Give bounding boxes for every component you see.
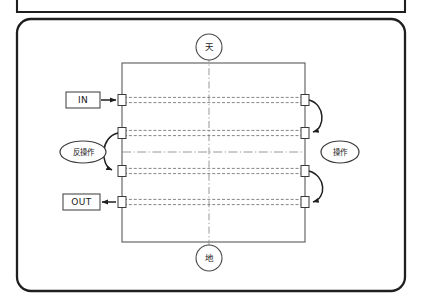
in-label-group: IN	[66, 92, 116, 108]
device-body-rectangle	[122, 63, 305, 242]
trace-4	[124, 199, 303, 204]
pad-right-1	[301, 95, 309, 106]
pad-right-2	[301, 128, 309, 139]
left-bubble-group: 反操作	[60, 141, 106, 163]
out-label-group: OUT	[63, 194, 116, 210]
out-box-label: OUT	[71, 197, 91, 207]
trace-channels	[124, 97, 303, 204]
arc-right-lower	[309, 171, 323, 202]
arc-right-upper	[309, 100, 322, 132]
cropped-frame-above	[17, 0, 405, 12]
bottom-node-group: 地	[196, 245, 222, 271]
pad-right-4	[301, 197, 309, 208]
trace-2	[124, 130, 303, 135]
bottom-node-label: 地	[205, 253, 214, 263]
figure-root: IN OUT 天 地 反操作 操作	[0, 0, 421, 306]
pad-left-3	[118, 166, 126, 177]
connecting-arcs	[104, 100, 323, 202]
right-bubble-label: 操作	[333, 147, 348, 157]
trace-3	[124, 168, 303, 173]
left-bubble-label: 反操作	[73, 147, 95, 157]
pad-left-4	[118, 197, 126, 208]
top-node-label: 天	[205, 42, 214, 52]
pad-right-3	[301, 166, 309, 177]
pad-left-2	[118, 128, 126, 139]
pad-left-1	[118, 95, 126, 106]
in-box-label: IN	[78, 95, 88, 105]
right-bubble-group: 操作	[321, 141, 359, 163]
trace-1	[124, 97, 303, 102]
center-lines	[122, 55, 305, 250]
top-node-group: 天	[196, 34, 222, 60]
technical-diagram-canvas: IN OUT 天 地 反操作 操作	[0, 0, 421, 306]
